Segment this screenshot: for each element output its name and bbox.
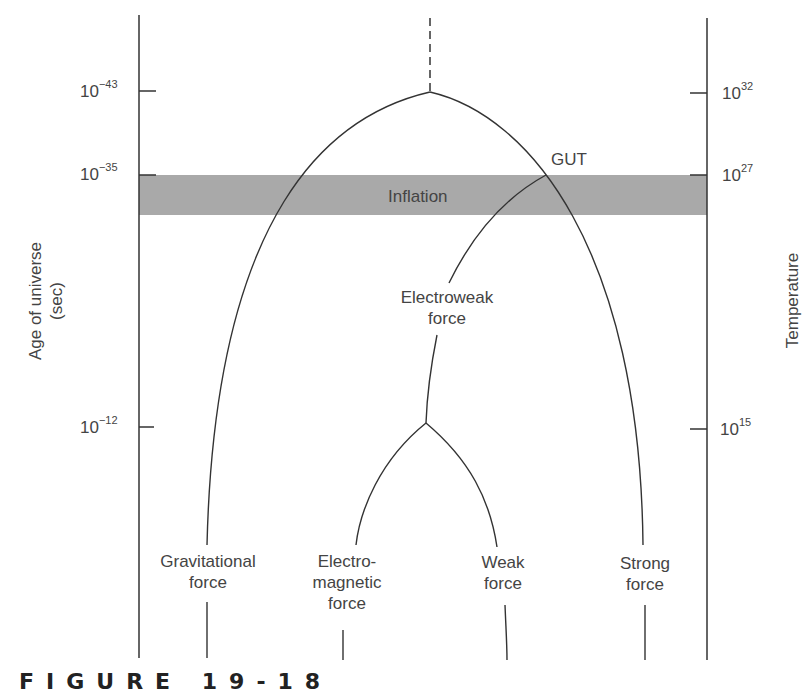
figure-caption: FIGURE 19-18: [19, 669, 332, 694]
right-tick-1: 1032: [722, 82, 753, 104]
weak-curve: [426, 423, 497, 547]
electromagnetic-curve: [356, 423, 426, 545]
left-tick-2: 10−35: [80, 163, 118, 185]
right-tick-3: 1015: [720, 418, 751, 440]
gut-label: GUT: [551, 149, 587, 170]
strong-force-label: Strongforce: [610, 553, 680, 595]
left-tick-1: 10−43: [80, 80, 118, 102]
weak-force-label: Weakforce: [470, 552, 536, 594]
gravitational-force-label: Gravitationalforce: [148, 551, 268, 593]
right-axis-title: Temperature: [782, 231, 803, 371]
left-axis-title: Age of universe(sec): [25, 211, 67, 391]
right-tick-2: 1027: [722, 164, 753, 186]
electromagnetic-force-label: Electro-magneticforce: [304, 551, 390, 614]
left-tick-3: 10−12: [80, 416, 118, 438]
inflation-label: Inflation: [388, 186, 448, 207]
electroweak-label: Electroweakforce: [392, 287, 502, 329]
